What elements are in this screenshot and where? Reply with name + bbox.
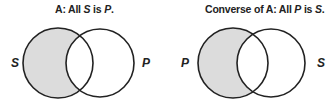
- label-right-a: P: [142, 56, 150, 70]
- venn-diagrams: [0, 0, 333, 101]
- diagram-title-a: A: All S is P.: [55, 3, 114, 15]
- label-right-converse: S: [317, 56, 325, 70]
- venn-a: [23, 28, 134, 98]
- label-left-a: S: [11, 56, 19, 70]
- diagram-title-converse: Converse of A: All P is S.: [205, 3, 325, 15]
- venn-converse: [198, 28, 305, 98]
- label-left-converse: P: [181, 56, 189, 70]
